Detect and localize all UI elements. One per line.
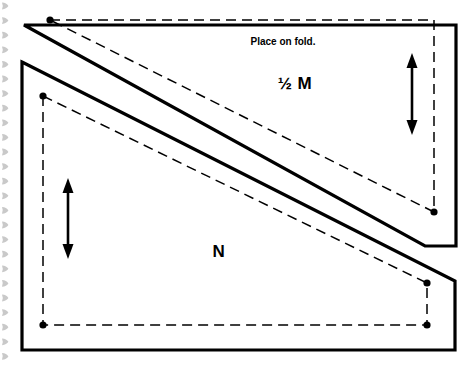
- binding-hole-mark: [2, 280, 8, 287]
- binding-hole-mark: [2, 178, 8, 185]
- piece-m-grain-arrow: [407, 53, 418, 135]
- binding-hole-mark: [2, 251, 8, 258]
- binding-hole-mark: [2, 149, 8, 156]
- binding-hole-mark: [2, 3, 8, 10]
- binding-hole-mark: [2, 119, 8, 126]
- piece-n-cut-line: [22, 62, 455, 350]
- binding-hole-mark: [2, 105, 8, 112]
- piece-m-cut-line: [24, 25, 456, 246]
- binding-hole-mark: [2, 265, 8, 272]
- piece-m-corner-dot: [430, 208, 437, 215]
- piece-n-corner-dot: [39, 92, 46, 99]
- pattern-diagram: Place on fold. ½ M N: [0, 0, 473, 372]
- piece-n-corner-dot: [423, 279, 430, 286]
- pattern-page: Place on fold. ½ M N: [0, 0, 473, 372]
- binding-hole-mark: [2, 295, 8, 302]
- piece-m-seam-line: [50, 20, 434, 212]
- binding-hole-mark: [2, 134, 8, 141]
- binding-hole-mark: [2, 76, 8, 83]
- binding-hole-mark: [2, 324, 8, 331]
- place-on-fold-label: Place on fold.: [250, 36, 315, 47]
- binding-hole-mark: [2, 192, 8, 199]
- binding-hole-mark: [2, 61, 8, 68]
- piece-m-corner-dot: [46, 16, 53, 23]
- piece-n-seam-line: [43, 96, 427, 325]
- binding-hole-mark: [2, 236, 8, 243]
- binding-hole-mark: [2, 207, 8, 214]
- binding-hole-mark: [2, 90, 8, 97]
- binding-hole-mark: [2, 338, 8, 345]
- piece-n-corner-dot: [423, 321, 430, 328]
- binding-hole-mark: [2, 353, 8, 360]
- binding-hole-mark: [2, 222, 8, 229]
- piece-n-label: N: [213, 242, 226, 261]
- piece-m-group: [24, 16, 456, 246]
- piece-n-grain-arrow: [63, 178, 74, 259]
- binding-hole-mark: [2, 46, 8, 53]
- binding-hole-mark: [2, 163, 8, 170]
- piece-m-label: ½ M: [278, 74, 313, 93]
- piece-n-corner-dot: [39, 321, 46, 328]
- binding-hole-mark: [2, 32, 8, 39]
- spiral-binding-marks: [2, 3, 8, 360]
- binding-hole-mark: [2, 309, 8, 316]
- binding-hole-mark: [2, 17, 8, 24]
- piece-n-group: [22, 62, 455, 350]
